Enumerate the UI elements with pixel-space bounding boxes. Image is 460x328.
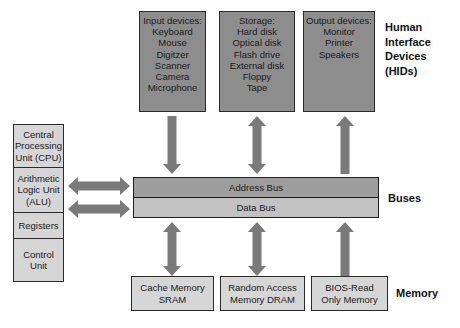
output-devices-line-0: Output devices:	[306, 15, 372, 26]
input-devices-line-4: Scanner	[142, 60, 203, 71]
output-devices-line-3: Speakers	[306, 49, 372, 60]
bios-rom-line-0: BIOS-Read	[325, 282, 374, 293]
storage-line-1: Hard disk	[222, 26, 292, 37]
bios-rom-line-1: Only Memory	[321, 294, 377, 305]
cpu-stack: Central Processing Unit (CPU) Arithmetic…	[13, 124, 64, 282]
arrow-cpu-bus-upper	[68, 175, 130, 197]
arrow-bus-to-ram	[245, 222, 269, 276]
storage-box: Storage: Hard disk Optical disk Flash dr…	[219, 11, 295, 112]
cpu-cell-3-line-1: Unit	[14, 260, 63, 271]
input-devices-line-0: Input devices:	[142, 15, 203, 26]
arrow-output-from-bus	[333, 116, 357, 174]
storage-line-4: External disk	[222, 60, 292, 71]
input-devices-line-1: Keyboard	[142, 26, 203, 37]
hids-label-line-0: Human	[385, 20, 459, 35]
input-devices-line-2: Mouse	[142, 37, 203, 48]
cpu-cell-arithmetic-logic-unit: Arithmetic Logic Unit (ALU)	[14, 167, 63, 212]
data-bus-lane: Data Bus	[134, 198, 378, 217]
output-devices-line-2: Printer	[306, 37, 372, 48]
cpu-cell-control-unit: Control Unit	[14, 238, 63, 281]
hids-label-line-1: Interface	[385, 35, 459, 50]
address-bus-lane: Address Bus	[134, 178, 378, 198]
cpu-cell-1-line-1: Logic Unit	[14, 184, 63, 195]
arrow-cpu-bus-lower	[68, 198, 130, 220]
input-devices-line-3: Digitzer	[142, 49, 203, 60]
input-devices-line-5: Camera	[142, 71, 203, 82]
storage-line-5: Floppy	[222, 71, 292, 82]
arrow-bios-to-bus	[333, 222, 357, 276]
cache-memory-box: Cache Memory SRAM	[131, 276, 214, 311]
cpu-cell-0-line-0: Central	[14, 129, 63, 140]
output-devices-line-1: Monitor	[306, 26, 372, 37]
hids-label-line-2: Devices	[385, 49, 459, 64]
cpu-cell-0-line-2: Unit (CPU)	[14, 152, 63, 163]
arrow-bus-to-cache	[160, 222, 184, 276]
cpu-cell-registers: Registers	[14, 212, 63, 238]
diagram-canvas: Input devices: Keyboard Mouse Digitzer S…	[0, 0, 460, 328]
storage-line-3: Flash drive	[222, 49, 292, 60]
storage-line-0: Storage:	[222, 15, 292, 26]
cache-memory-line-0: Cache Memory	[140, 282, 204, 293]
memory-label: Memory	[396, 286, 438, 301]
arrow-storage-to-bus	[245, 116, 269, 174]
buses-label: Buses	[388, 191, 421, 206]
cpu-cell-central-processing-unit: Central Processing Unit (CPU)	[14, 125, 63, 167]
hids-label-line-3: (HIDs)	[385, 64, 459, 79]
input-devices-box: Input devices: Keyboard Mouse Digitzer S…	[139, 11, 206, 112]
bios-rom-box: BIOS-Read Only Memory	[311, 276, 388, 311]
bus-block: Address Bus Data Bus	[133, 177, 379, 218]
memory-label-text: Memory	[396, 287, 438, 299]
cpu-cell-0-line-1: Processing	[14, 140, 63, 151]
input-devices-line-6: Microphone	[142, 82, 203, 93]
cpu-cell-2-line-0: Registers	[14, 220, 63, 231]
cpu-cell-1-line-0: Arithmetic	[14, 173, 63, 184]
random-access-memory-line-0: Random Access	[228, 282, 297, 293]
buses-label-text: Buses	[388, 192, 421, 204]
data-bus-label: Data Bus	[236, 202, 275, 213]
random-access-memory-box: Random Access Memory DRAM	[220, 276, 305, 311]
hids-label: Human Interface Devices (HIDs)	[385, 20, 459, 78]
cache-memory-line-1: SRAM	[159, 294, 186, 305]
cpu-cell-1-line-2: (ALU)	[14, 196, 63, 207]
random-access-memory-line-1: Memory DRAM	[230, 294, 295, 305]
address-bus-label: Address Bus	[229, 182, 283, 193]
storage-line-6: Tape	[222, 82, 292, 93]
arrow-input-to-bus	[160, 116, 184, 174]
storage-line-2: Optical disk	[222, 37, 292, 48]
output-devices-box: Output devices: Monitor Printer Speakers	[303, 11, 375, 112]
cpu-cell-3-line-0: Control	[14, 249, 63, 260]
